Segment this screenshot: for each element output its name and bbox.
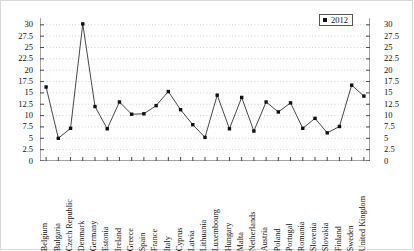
series-line-group: [46, 24, 364, 138]
x-axis-label: Sweden: [347, 225, 355, 251]
data-point-marker: [142, 112, 145, 115]
y-axis-right-label: 2.5: [384, 145, 395, 154]
x-axis-label: Netherlands: [249, 211, 257, 251]
x-axis-label: Austria: [261, 227, 269, 251]
data-point-marker: [191, 123, 194, 126]
x-axis-category-labels: BelgiumBulgariaCzech RepublicDenmarkGerm…: [40, 165, 370, 251]
chart-legend: 2012: [319, 14, 353, 26]
x-axis-label: Spain: [139, 232, 147, 251]
x-axis-label: Latvia: [188, 230, 196, 251]
data-point-marker: [81, 22, 84, 25]
data-point-marker: [106, 127, 109, 130]
y-axis-right-label: 7.5: [384, 122, 395, 131]
y-axis-left-label: 10: [4, 111, 33, 120]
x-axis-label: Poland: [273, 228, 281, 251]
data-point-marker: [277, 110, 280, 113]
data-point-marker: [240, 96, 243, 99]
data-point-marker: [118, 100, 121, 103]
x-axis-label: Hungary: [224, 222, 232, 251]
x-axis-label: Portugal: [286, 223, 294, 251]
y-axis-left-label: 20: [4, 66, 33, 75]
x-axis-label: Malta: [237, 232, 245, 251]
data-point-marker: [350, 83, 353, 86]
y-axis-left-label: 15: [4, 88, 33, 97]
data-point-marker: [338, 125, 341, 128]
data-point-marker: [167, 90, 170, 93]
data-point-marker: [228, 127, 231, 130]
series-line-2012: [46, 24, 364, 138]
x-axis-label: Italy: [163, 236, 171, 251]
x-axis-label: Finland: [334, 226, 342, 251]
y-axis-left-label: 7.5: [4, 122, 33, 131]
x-axis-label: Belgium: [41, 223, 49, 251]
line-chart-svg: [40, 18, 370, 161]
axes-group: [40, 18, 370, 161]
y-axis-right-label: 15: [384, 88, 393, 97]
data-point-marker: [179, 108, 182, 111]
x-axis-label: Lithuania: [200, 220, 208, 251]
x-axis-label: Estonia: [102, 226, 110, 251]
data-point-marker: [301, 127, 304, 130]
y-axis-right-label: 12.5: [384, 100, 399, 109]
x-axis-label: Romania: [298, 221, 306, 251]
gridlines-group: [40, 25, 370, 161]
x-axis-label: Slovenia: [310, 222, 318, 251]
data-point-marker: [313, 117, 316, 120]
y-axis-right-label: 25: [384, 43, 393, 52]
data-point-marker: [154, 104, 157, 107]
data-point-marker: [362, 94, 365, 97]
x-axis-label: Ireland: [114, 228, 122, 251]
data-point-marker: [130, 113, 133, 116]
y-axis-right-label: 20: [384, 66, 393, 75]
y-axis-left-label: 5: [4, 134, 33, 143]
y-axis-left-label: 27.5: [4, 32, 33, 41]
x-axis-label: Luxembourg: [212, 209, 220, 251]
y-axis-right-label: 0: [384, 157, 388, 166]
y-axis-left-label: 25: [4, 43, 33, 52]
data-point-marker: [216, 93, 219, 96]
legend-label-2012: 2012: [331, 16, 348, 25]
y-axis-right-label: 10: [384, 111, 393, 120]
plot-area: [40, 18, 370, 161]
axis-ticks-group: [40, 25, 370, 161]
x-axis-label: Bulgaria: [53, 223, 61, 251]
chart-container: 02.557.51012.51517.52022.52527.530 02.55…: [0, 0, 414, 251]
data-point-marker: [44, 85, 47, 88]
y-axis-right-label: 5: [384, 134, 388, 143]
data-point-marker: [203, 136, 206, 139]
x-axis-label: Germany: [90, 221, 98, 251]
y-axis-left-label: 30: [4, 20, 33, 29]
y-axis-right-label: 30: [384, 20, 393, 29]
y-axis-left-label: 12.5: [4, 100, 33, 109]
x-axis-label: United Kingdom: [359, 196, 367, 251]
x-axis-label: Greece: [127, 228, 135, 251]
y-axis-left-label: 17.5: [4, 77, 33, 86]
series-point-group: [44, 22, 365, 140]
x-axis-label: Slovakia: [322, 222, 330, 251]
y-axis-left-tick-labels: 02.557.51012.51517.52022.52527.530: [0, 18, 33, 161]
y-axis-right-label: 17.5: [384, 77, 399, 86]
x-axis-label: Czech Republic: [66, 199, 74, 251]
data-point-marker: [69, 127, 72, 130]
y-axis-right-label: 27.5: [384, 32, 399, 41]
data-point-marker: [264, 100, 267, 103]
y-axis-left-label: 2.5: [4, 145, 33, 154]
data-point-marker: [252, 129, 255, 132]
data-point-marker: [93, 105, 96, 108]
x-axis-label: France: [151, 229, 159, 251]
data-point-marker: [289, 101, 292, 104]
data-point-marker: [57, 137, 60, 140]
legend-marker-square: [323, 18, 327, 22]
y-axis-left-label: 22.5: [4, 54, 33, 63]
y-axis-left-label: 0: [4, 157, 33, 166]
y-axis-right-tick-labels: 02.557.51012.51517.52022.52527.530: [377, 18, 411, 161]
data-point-marker: [326, 131, 329, 134]
x-axis-label: Denmark: [78, 221, 86, 251]
y-axis-right-label: 22.5: [384, 54, 399, 63]
x-axis-label: Cyprus: [176, 227, 184, 251]
